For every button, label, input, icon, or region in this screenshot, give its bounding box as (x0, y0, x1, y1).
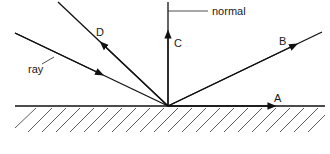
ray-leader-line (42, 57, 54, 64)
label-a: A (274, 92, 282, 104)
label-b: B (279, 35, 286, 47)
label-ray: ray (28, 63, 44, 75)
label-d: D (96, 26, 104, 38)
ray-d-arrow (103, 45, 168, 107)
label-c: C (174, 37, 182, 49)
label-normal: normal (212, 5, 246, 17)
surface-hatching (15, 108, 325, 132)
reflection-diagram: normal ray D C B A (0, 0, 330, 154)
